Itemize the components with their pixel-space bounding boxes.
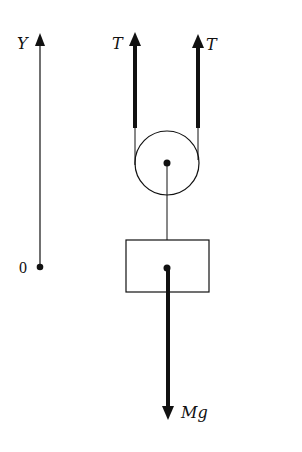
tension-right-label: T: [206, 35, 218, 54]
origin-label: 0: [19, 259, 27, 276]
origin-dot: [37, 264, 44, 271]
tension-left: T: [112, 32, 141, 165]
y-axis-arrowhead-icon: [35, 33, 45, 46]
arrowhead-up-icon: [129, 32, 141, 46]
arrowhead-up-icon: [192, 34, 204, 48]
weight-label: Mg: [180, 403, 208, 422]
y-axis: Y 0: [17, 33, 45, 276]
tension-left-label: T: [112, 34, 124, 53]
free-body-diagram: Y 0 T T Mg: [0, 0, 302, 452]
arrowhead-down-icon: [162, 406, 174, 420]
weight-force: Mg: [162, 268, 208, 422]
tension-right: T: [192, 34, 218, 160]
pulley: [135, 131, 199, 240]
y-axis-label: Y: [17, 34, 29, 53]
